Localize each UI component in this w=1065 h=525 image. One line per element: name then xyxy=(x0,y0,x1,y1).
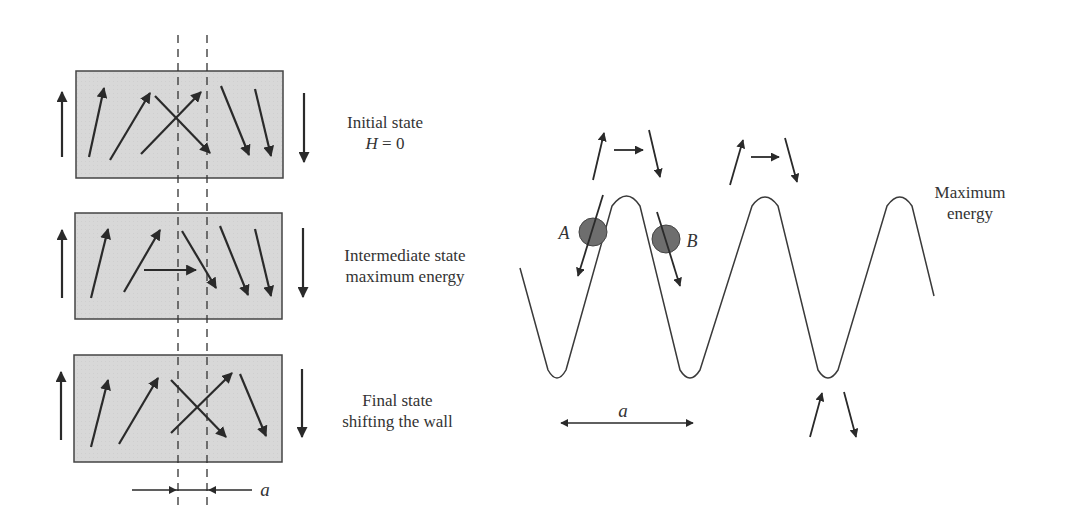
label-max-line2: energy xyxy=(920,203,1020,224)
spin-config-peak-1 xyxy=(593,130,660,180)
domain-box-initial xyxy=(76,71,283,178)
label-max-line1: Maximum xyxy=(920,182,1020,203)
position-a-ball xyxy=(579,218,607,246)
spin-config-trough xyxy=(810,392,856,437)
label-final-line1: Final state xyxy=(320,390,475,411)
label-h-equals-zero: H = 0 xyxy=(330,133,440,154)
label-initial-state: Initial state H = 0 xyxy=(330,112,440,154)
label-h-var: H xyxy=(366,134,378,153)
label-intermediate-state: Intermediate state maximum energy xyxy=(325,245,485,287)
label-final-line2: shifting the wall xyxy=(320,411,475,432)
label-initial-line1: Initial state xyxy=(330,112,440,133)
spin-config-peak-2 xyxy=(730,138,797,185)
label-h-value: = 0 xyxy=(378,134,405,153)
label-point-b: B xyxy=(683,231,701,252)
label-intermediate-line1: Intermediate state xyxy=(325,245,485,266)
label-period-a: a xyxy=(614,400,632,421)
label-point-a: A xyxy=(555,223,573,244)
label-wall-width-a: a xyxy=(255,479,275,500)
label-maximum-energy: Maximum energy xyxy=(920,182,1020,224)
diagram-canvas xyxy=(0,0,1065,525)
label-final-state: Final state shifting the wall xyxy=(320,390,475,432)
label-intermediate-line2: maximum energy xyxy=(325,266,485,287)
